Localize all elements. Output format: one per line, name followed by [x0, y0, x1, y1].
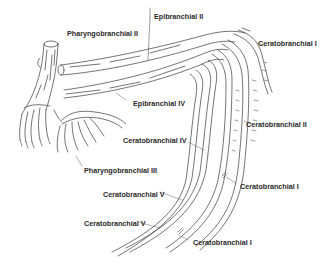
label-ceratobranchial-i-mid: Ceratobranchial I [240, 183, 299, 190]
label-pharyngobranchial-iii: Pharyngobranchial III [84, 167, 157, 174]
label-ceratobranchial-i-bottom: Ceratobranchial I [193, 239, 252, 246]
label-ceratobranchial-v-upper: Ceratobranchial V [103, 191, 165, 198]
pharyngobranchial-iii-claws [54, 110, 126, 166]
label-ceratobranchial-ii: Ceratobranchial II [246, 121, 307, 128]
pharyngobranchial-ii-bone [22, 41, 58, 114]
label-ceratobranchial-v-lower: Ceratobranchial V [84, 220, 146, 227]
label-epibranchial-ii: Epibranchial II [154, 13, 203, 20]
label-epibranchial-iv: Epibranchial IV [133, 100, 185, 107]
label-ceratobranchial-i-top: Ceratobranchial I [258, 40, 317, 47]
label-ceratobranchial-iv: Ceratobranchial IV [123, 137, 187, 144]
pharyngobranchial-claws-left [20, 105, 50, 148]
epibranchial-bars [58, 8, 245, 98]
label-pharyngobranchial-ii: Pharyngobranchial II [67, 30, 138, 37]
gill-arch-diagram: Pharyngobranchial II Epibranchial II Cer… [0, 0, 320, 265]
